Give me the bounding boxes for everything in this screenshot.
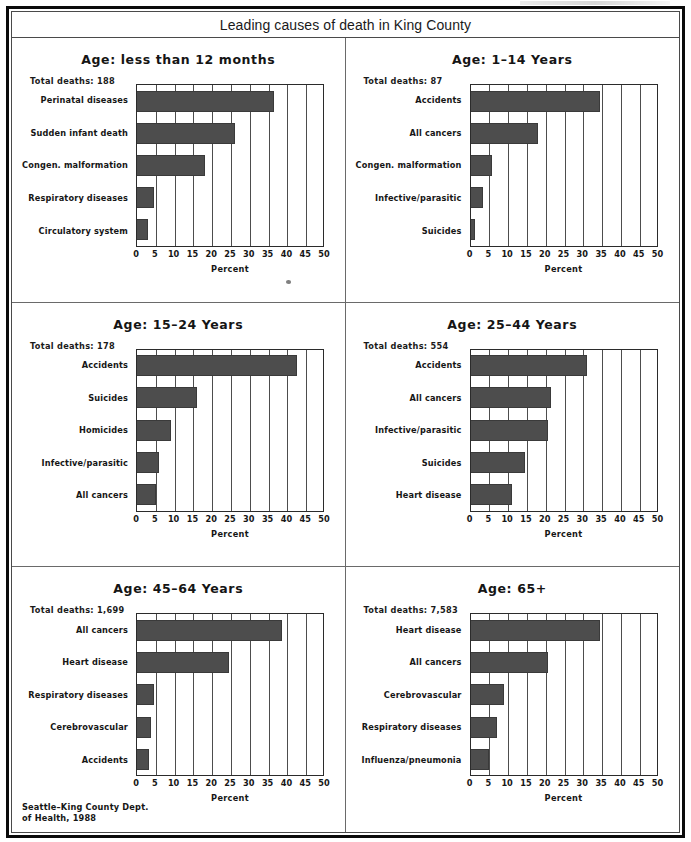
scan-artifact xyxy=(520,1,670,5)
x-axis-title: Percent xyxy=(470,264,658,274)
category-label: Suicides xyxy=(16,381,133,414)
x-tick-label: 0 xyxy=(467,514,473,524)
x-tick-label: 25 xyxy=(224,514,235,524)
chart-panel-2: Age: 1–14 YearsTotal deaths: 87Accidents… xyxy=(346,38,680,303)
bar-row xyxy=(471,743,657,775)
category-label: Cerebrovascular xyxy=(16,711,133,744)
x-tick-label: 50 xyxy=(652,514,663,524)
category-label: All cancers xyxy=(350,646,467,679)
bar-row xyxy=(471,478,657,510)
x-tick-label: 5 xyxy=(152,514,158,524)
x-tick-label: 20 xyxy=(539,778,550,788)
category-label: Sudden infant death xyxy=(16,117,133,150)
category-label: Suicides xyxy=(350,446,467,479)
panel-title: Age: less than 12 months xyxy=(12,52,345,67)
x-tick-label: 35 xyxy=(262,778,273,788)
bar-row xyxy=(137,382,323,414)
bar-row xyxy=(471,446,657,478)
x-tick-label: 45 xyxy=(633,514,644,524)
bar-row xyxy=(471,711,657,743)
x-tick-label: 50 xyxy=(318,249,329,259)
x-axis-title: Percent xyxy=(470,529,658,539)
x-tick-label: 0 xyxy=(467,249,473,259)
category-label: Accidents xyxy=(350,349,467,382)
plot-area xyxy=(470,349,658,512)
x-tick-label: 20 xyxy=(205,514,216,524)
bars-layer xyxy=(137,350,323,511)
bar-row xyxy=(471,214,657,246)
x-tick-label: 35 xyxy=(262,249,273,259)
bar xyxy=(471,484,512,505)
category-label: Cerebrovascular xyxy=(350,679,467,712)
x-tick-label: 25 xyxy=(558,249,569,259)
bar-row xyxy=(137,446,323,478)
x-axis: 05101520253035404550 xyxy=(470,514,658,528)
x-tick-label: 5 xyxy=(485,514,491,524)
category-label: Respiratory diseases xyxy=(350,711,467,744)
x-axis-title: Percent xyxy=(136,264,324,274)
x-tick-label: 50 xyxy=(652,249,663,259)
bar xyxy=(471,123,539,144)
x-tick-label: 5 xyxy=(152,778,158,788)
bar-row xyxy=(137,350,323,382)
bar xyxy=(137,684,154,705)
x-tick-label: 40 xyxy=(614,778,625,788)
page-title: Leading causes of death in King County xyxy=(220,17,471,33)
bar xyxy=(137,355,297,376)
bar-row xyxy=(137,117,323,149)
x-tick-label: 10 xyxy=(501,249,512,259)
bar xyxy=(137,484,156,505)
panel-title: Age: 25–44 Years xyxy=(346,317,680,332)
x-tick-label: 30 xyxy=(577,778,588,788)
category-label: Congen. malformation xyxy=(16,149,133,182)
x-tick-label: 10 xyxy=(501,778,512,788)
x-tick-label: 25 xyxy=(224,778,235,788)
x-tick-label: 20 xyxy=(539,249,550,259)
category-axis: AccidentsAll cancersInfective/parasiticS… xyxy=(350,349,467,512)
x-tick-label: 0 xyxy=(133,778,139,788)
category-label: Heart disease xyxy=(350,479,467,512)
bar-row xyxy=(137,647,323,679)
category-label: Circulatory system xyxy=(16,214,133,247)
x-tick-label: 45 xyxy=(633,778,644,788)
category-label: All cancers xyxy=(16,479,133,512)
panel-title: Age: 45–64 Years xyxy=(12,581,345,596)
bar xyxy=(471,91,601,112)
category-label: Respiratory diseases xyxy=(16,679,133,712)
bar xyxy=(471,717,497,738)
x-tick-label: 35 xyxy=(595,778,606,788)
x-tick-label: 50 xyxy=(652,778,663,788)
bars-layer xyxy=(137,614,323,775)
x-axis: 05101520253035404550 xyxy=(136,778,324,792)
bar xyxy=(471,749,490,770)
bars-layer xyxy=(137,85,323,246)
x-axis-title: Percent xyxy=(136,793,324,803)
bar-row xyxy=(137,614,323,646)
bar-row xyxy=(471,679,657,711)
x-axis: 05101520253035404550 xyxy=(470,249,658,263)
chart-panel-3: Age: 15–24 YearsTotal deaths: 178Acciden… xyxy=(12,303,346,568)
x-tick-label: 40 xyxy=(281,778,292,788)
bar xyxy=(471,187,483,208)
bar xyxy=(137,123,235,144)
panel-title: Age: 1–14 Years xyxy=(346,52,680,67)
chart-panel-6: Age: 65+Total deaths: 7,583Heart disease… xyxy=(346,567,680,832)
plot-area xyxy=(136,349,324,512)
category-label: Infective/parasitic xyxy=(350,414,467,447)
category-label: All cancers xyxy=(16,613,133,646)
x-tick-label: 45 xyxy=(299,249,310,259)
x-tick-label: 5 xyxy=(485,778,491,788)
category-axis: Heart diseaseAll cancersCerebrovascularR… xyxy=(350,613,467,776)
x-tick-label: 35 xyxy=(595,249,606,259)
bar-row xyxy=(137,679,323,711)
bars-layer xyxy=(471,85,657,246)
plot-wrap: All cancersHeart diseaseRespiratory dise… xyxy=(12,613,345,828)
panel-title: Age: 15–24 Years xyxy=(12,317,345,332)
plot-wrap: Perinatal diseasesSudden infant deathCon… xyxy=(12,84,345,299)
plot-wrap: AccidentsAll cancersCongen. malformation… xyxy=(346,84,680,299)
plot-area xyxy=(136,613,324,776)
category-axis: AccidentsSuicidesHomicidesInfective/para… xyxy=(16,349,133,512)
bar xyxy=(137,749,149,770)
plot-area xyxy=(470,613,658,776)
category-label: Suicides xyxy=(350,214,467,247)
